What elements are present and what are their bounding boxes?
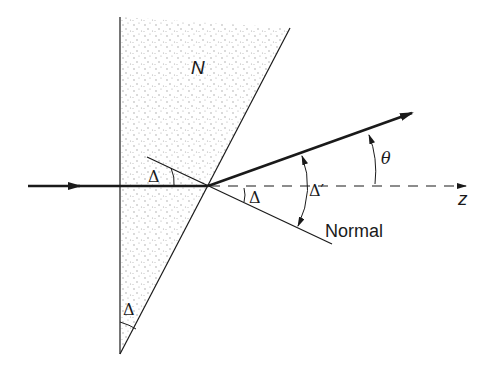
normal-angle-label: Δ xyxy=(249,188,261,207)
incidence-angle-label: Δ xyxy=(148,167,160,186)
normal-angle-arc xyxy=(244,188,245,202)
z-axis-label: z xyxy=(457,188,468,209)
refraction-angle-label: Δ′ xyxy=(309,181,325,200)
deviation-angle-label: θ xyxy=(381,149,391,168)
medium-label: N xyxy=(191,57,205,78)
deviation-angle-arc xyxy=(369,135,376,184)
prism-refraction-diagram: Δ N Normal z Δ Δ Δ′ θ xyxy=(0,0,496,371)
refraction-angle-arc xyxy=(298,156,308,226)
apex-angle-label: Δ xyxy=(123,300,135,319)
normal-label: Normal xyxy=(325,221,383,241)
